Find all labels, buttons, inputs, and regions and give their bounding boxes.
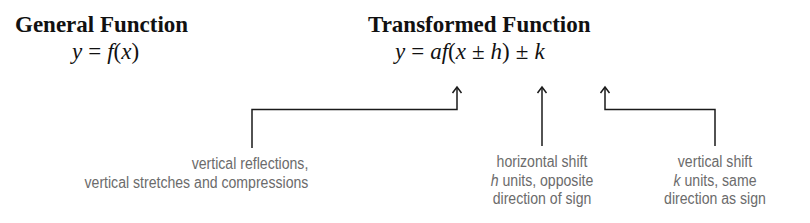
annotation-k-line-2: k units, same — [645, 172, 786, 191]
annotation-k-line-3: direction as sign — [645, 190, 786, 209]
annotation-h-line-2: h units, opposite — [472, 172, 613, 191]
annotation-h: horizontal shift h units, opposite direc… — [472, 153, 613, 209]
annotation-a-line-2: vertical stretches and compressions — [84, 174, 308, 193]
annotation-a-line-1: vertical reflections, — [84, 155, 308, 174]
annotation-k-var: k — [674, 172, 681, 189]
arrow-to-k — [605, 88, 715, 146]
annotation-h-var: h — [491, 172, 499, 189]
annotation-a: vertical reflections, vertical stretches… — [84, 155, 308, 192]
arrow-to-a — [252, 88, 457, 148]
annotation-k: vertical shift k units, same direction a… — [645, 153, 786, 209]
annotation-h-line-1: horizontal shift — [472, 153, 613, 172]
annotation-h-line-3: direction of sign — [472, 190, 613, 209]
annotation-k-line-1: vertical shift — [645, 153, 786, 172]
